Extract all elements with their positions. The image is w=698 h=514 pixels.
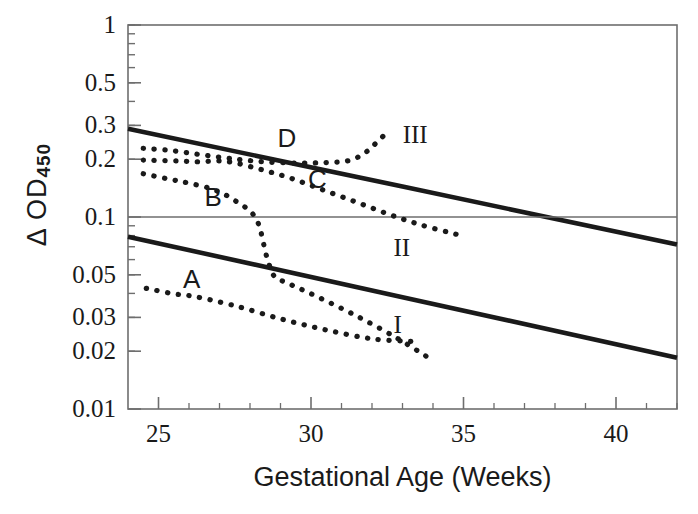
y-axis-tick-label: 0.05	[8, 262, 116, 287]
chart-figure: Δ OD450 Gestational Age (Weeks) 10.50.30…	[0, 0, 698, 514]
x-axis-tick-label: 30	[281, 421, 341, 446]
x-axis-label: Gestational Age (Weeks)	[128, 462, 677, 493]
curve-label-A: A	[183, 266, 200, 292]
y-axis-tick-label: 1	[8, 12, 116, 37]
curve-label-II: II	[394, 235, 411, 260]
x-axis-tick-label: 35	[434, 421, 494, 446]
curve-label-C: C	[308, 166, 327, 192]
y-axis-tick-label: 0.5	[8, 70, 116, 95]
series-line-C	[143, 160, 457, 235]
y-axis-tick-label: 0.02	[8, 338, 116, 363]
curve-label-III: III	[403, 122, 428, 147]
y-axis-tick-label: 0.01	[8, 396, 116, 421]
y-axis-tick-label: 0.2	[8, 146, 116, 171]
y-axis-tick-label: 0.3	[8, 112, 116, 137]
curve-label-B: B	[204, 184, 221, 210]
y-axis-tick-label: 0.03	[8, 304, 116, 329]
x-axis-tick-label: 25	[129, 421, 189, 446]
curve-label-D: D	[278, 125, 297, 151]
curve-label-I: I	[394, 312, 402, 337]
series-line-A	[146, 288, 411, 341]
y-axis-tick-label: 0.1	[8, 204, 116, 229]
x-axis-tick-label: 40	[586, 421, 646, 446]
